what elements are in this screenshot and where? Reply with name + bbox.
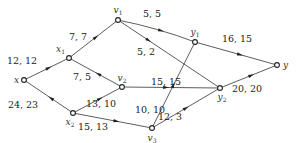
edge-label: 16, 15 — [222, 33, 252, 44]
edge-label: 20, 20 — [232, 83, 262, 94]
edge-y1-y — [195, 42, 277, 65]
node-label: v2 — [118, 73, 127, 84]
node-label: x2 — [66, 117, 75, 128]
node-label-subscript: 2 — [123, 77, 127, 84]
node-label: y2 — [217, 92, 227, 103]
node-x: x — [14, 75, 26, 85]
node-label-main: y — [282, 60, 289, 70]
arrowhead-icon — [158, 28, 165, 33]
edge-line — [195, 42, 277, 65]
edge-line — [118, 20, 195, 42]
node-label-subscript: 1 — [196, 31, 200, 38]
node-y: y — [275, 60, 289, 70]
edge-label: 15, 15 — [151, 76, 181, 87]
node-label-subscript: 2 — [223, 96, 227, 103]
edge-line — [122, 87, 220, 88]
edge-label: 7, 5 — [73, 71, 91, 82]
node-label: y — [282, 60, 289, 70]
arrowhead-icon — [45, 65, 52, 71]
node-circle — [218, 86, 223, 91]
node-x2: x2 — [66, 111, 76, 128]
arrowhead-icon — [237, 52, 244, 57]
edge-label: 12, 12 — [7, 55, 37, 66]
node-circle — [120, 85, 125, 90]
arrowhead-icon — [113, 119, 119, 123]
node-circle — [150, 126, 155, 131]
node-label-subscript: 3 — [153, 137, 157, 143]
edge-label: 12, 3 — [158, 111, 182, 122]
node-label-subscript: 1 — [61, 48, 65, 55]
edge-label: 13, 10 — [86, 98, 116, 109]
node-label-subscript: 2 — [71, 121, 75, 128]
arrowhead-icon — [95, 71, 102, 77]
node-label: x1 — [56, 44, 65, 55]
edge-v1-y1 — [118, 20, 195, 42]
node-circle — [193, 40, 198, 45]
edge-label: 5, 2 — [137, 46, 155, 57]
node-label: x — [14, 75, 19, 85]
nodes-layer: xx1x2v1v2v3y1y2y — [14, 5, 289, 143]
node-label: v3 — [148, 133, 157, 143]
edge-label: 7, 7 — [69, 31, 87, 42]
edge-label: 5, 5 — [143, 8, 161, 19]
node-circle — [71, 111, 76, 116]
edge-label: 24, 23 — [8, 99, 38, 110]
arrowhead-icon — [145, 37, 152, 43]
node-label: y1 — [190, 27, 200, 38]
node-label-subscript: 1 — [119, 9, 123, 16]
arrowhead-icon — [248, 73, 255, 78]
node-circle — [275, 63, 280, 68]
arrowhead-icon — [48, 95, 55, 101]
node-y1: y1 — [190, 27, 200, 44]
node-v3: v3 — [148, 126, 157, 143]
node-v1: v1 — [114, 5, 123, 22]
node-y2: y2 — [217, 86, 227, 103]
node-label-main: x — [14, 75, 19, 85]
node-circle — [22, 78, 27, 83]
node-circle — [67, 56, 72, 61]
node-x1: x1 — [56, 44, 71, 60]
node-circle — [116, 18, 121, 23]
edge-label: 15, 13 — [78, 121, 108, 132]
network-flow-diagram: 12, 1224, 237, 77, 55, 55, 216, 1513, 10… — [0, 0, 299, 143]
arrowhead-icon — [183, 105, 190, 111]
node-label: v1 — [114, 5, 123, 16]
